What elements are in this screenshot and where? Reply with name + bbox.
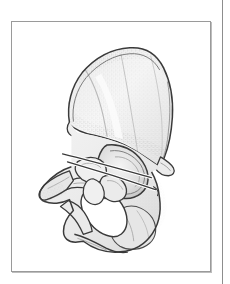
figure-frame: Anatomical line drawing of the right hip… (11, 21, 211, 272)
hip-bone-illustration (12, 22, 210, 271)
page-gutter-rule (222, 0, 223, 284)
page-background: Anatomical line drawing of the right hip… (0, 0, 230, 284)
